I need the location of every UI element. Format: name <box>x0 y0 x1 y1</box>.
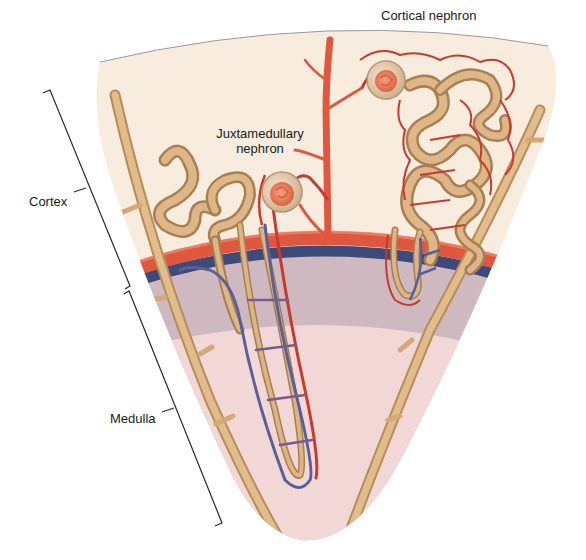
cortical-nephron-label: Cortical nephron <box>381 8 476 23</box>
juxtamedullary-label-line2: nephron <box>203 141 317 156</box>
kidney-wedge <box>0 0 586 560</box>
juxtamedullary-nephron-label: Juxtamedullary nephron <box>203 126 317 156</box>
juxtamedullary-label-line1: Juxtamedullary <box>203 126 317 141</box>
medulla-label: Medulla <box>110 411 156 426</box>
kidney-nephron-diagram <box>0 0 586 560</box>
cortex-label: Cortex <box>29 194 67 209</box>
